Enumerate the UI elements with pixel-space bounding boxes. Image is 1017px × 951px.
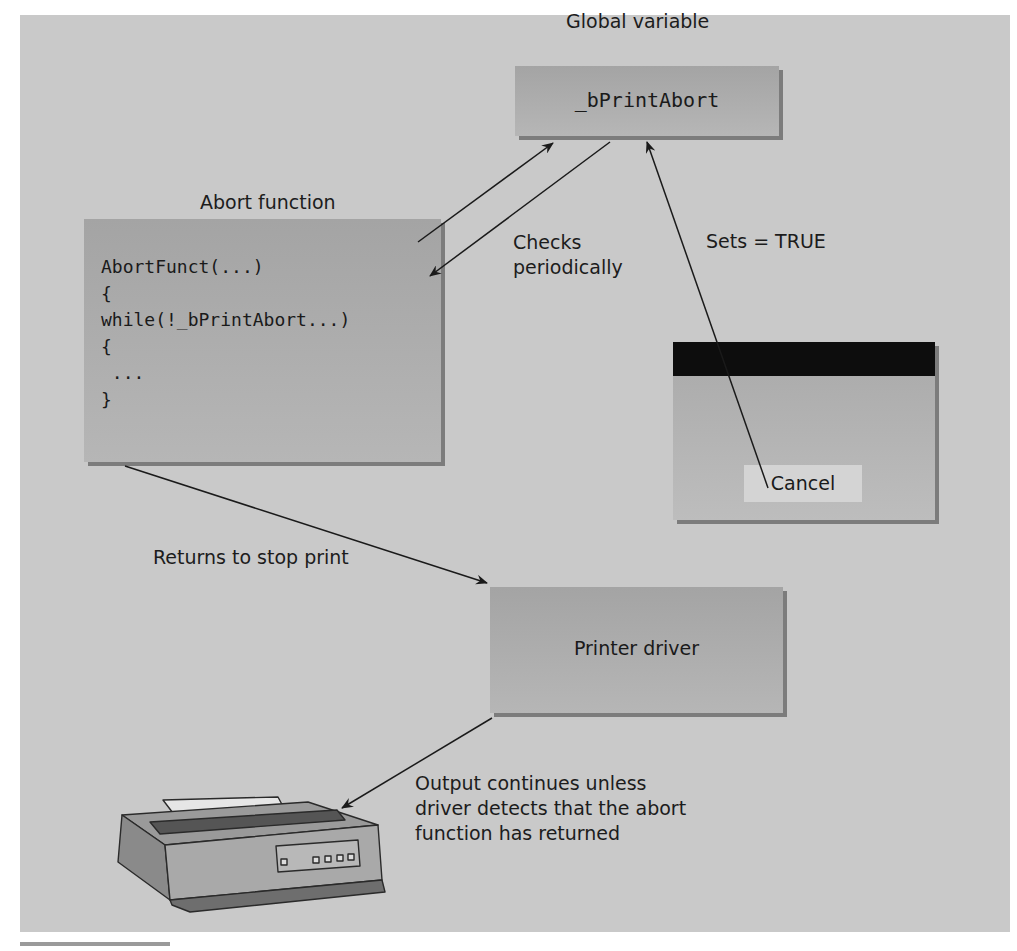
printer-icon bbox=[118, 797, 385, 912]
footer-rule bbox=[20, 942, 170, 946]
arrow-driver-to-printer bbox=[342, 718, 492, 808]
arrow-abort-to-global bbox=[418, 143, 553, 242]
diagram-arrows bbox=[0, 0, 1017, 951]
arrow-cancel-to-global bbox=[647, 142, 768, 488]
arrow-global-to-abort bbox=[430, 142, 610, 276]
arrow-abort-to-driver bbox=[125, 466, 487, 583]
